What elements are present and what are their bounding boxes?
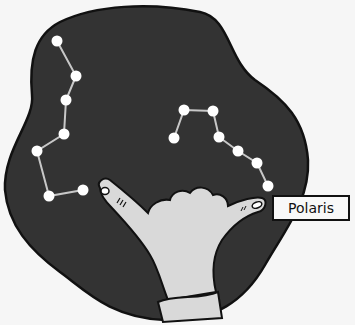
polaris-label-text: Polaris (288, 200, 334, 216)
star-icon (214, 132, 225, 143)
star-icon (179, 105, 190, 116)
polaris-star-icon (263, 181, 274, 192)
star-icon (61, 95, 72, 106)
star-icon (78, 185, 89, 196)
star-icon (252, 158, 263, 169)
star-icon (32, 146, 43, 157)
sky-blob (5, 6, 308, 320)
star-icon (52, 36, 63, 47)
star-icon (233, 146, 244, 157)
index-fingernail (101, 188, 109, 195)
illustration-canvas: Polaris (0, 0, 355, 325)
star-icon (59, 129, 70, 140)
star-icon (169, 133, 180, 144)
night-sky-illustration: Polaris (0, 0, 355, 325)
star-icon (44, 191, 55, 202)
star-icon (71, 71, 82, 82)
star-icon (208, 106, 219, 117)
polaris-label: Polaris (273, 196, 349, 220)
